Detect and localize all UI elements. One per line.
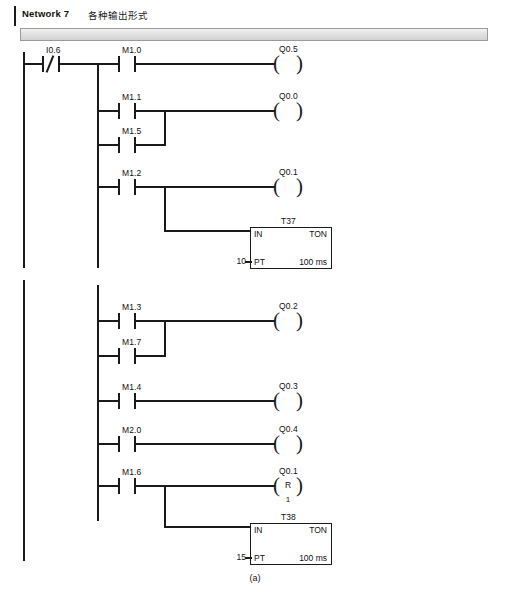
timer-preset-t38: 15	[228, 552, 246, 562]
contact-m1-5[interactable]	[118, 137, 136, 153]
contact-bar-left	[118, 478, 120, 494]
rung-3-wire-left	[97, 186, 118, 188]
timer-name-t37: T37	[281, 216, 296, 226]
contact-bar-left	[118, 103, 120, 119]
coil-label-q0-1-reset: Q0.1	[279, 466, 298, 476]
coil-label-q0-3: Q0.3	[279, 381, 298, 391]
timer-pt-label: PT	[254, 257, 265, 267]
coil-label-q0-1-output: Q0.1	[279, 167, 298, 177]
timer-timebase-label: 100 ms	[299, 257, 327, 267]
coil-paren-left: (	[273, 54, 280, 73]
timer-preset-wire-t37	[245, 261, 252, 263]
network-comment: 各种输出形式	[88, 8, 148, 22]
timer-preset-t37: 10	[228, 256, 246, 266]
contact-m1-3[interactable]	[118, 313, 136, 329]
network-divider-bar	[20, 28, 488, 41]
contact-label-m1-5: M1.5	[122, 126, 141, 136]
rung-3-timer-drop	[164, 186, 166, 232]
coil-q0-2[interactable]: ( )	[273, 311, 303, 331]
coil-paren-left: (	[273, 177, 280, 196]
network-title: Network 7	[22, 8, 69, 19]
coil-paren-right: )	[296, 54, 303, 73]
coil-q0-1-reset[interactable]: ( R )	[273, 476, 303, 496]
coil-label-q0-0: Q0.0	[279, 91, 298, 101]
contact-bar-left	[118, 56, 120, 72]
coil-paren-right: )	[296, 177, 303, 196]
timer-type-label: TON	[309, 229, 327, 239]
contact-label-m1-0: M1.0	[122, 45, 141, 55]
reset-count-value: 1	[273, 495, 303, 504]
coil-paren-left: (	[273, 311, 280, 330]
rung-4-wire-left	[97, 320, 118, 322]
rung-4-parallel-riser	[164, 320, 166, 357]
timer-timebase-label: 100 ms	[299, 553, 327, 563]
contact-m1-1[interactable]	[118, 103, 136, 119]
contact-m1-4[interactable]	[118, 393, 136, 409]
branch-rail-upper	[97, 63, 99, 268]
contact-bar-left	[118, 179, 120, 195]
rung-6-wire-right	[136, 443, 275, 445]
contact-m2-0[interactable]	[118, 436, 136, 452]
figure-caption: (a)	[0, 573, 510, 583]
contact-nc-slash	[46, 55, 54, 72]
rung-2-parallel-wire-left	[97, 144, 118, 146]
contact-bar-left	[118, 137, 120, 153]
rung-2-wire-right	[136, 110, 275, 112]
rung-4-parallel-wire-right	[136, 355, 166, 357]
rung-5-wire-left	[97, 400, 118, 402]
rung-4-wire-right	[136, 320, 275, 322]
rung-1-wire-mid	[60, 63, 118, 65]
contact-bar-left	[118, 313, 120, 329]
timer-in-label: IN	[254, 525, 263, 535]
coil-q0-1-output[interactable]: ( )	[273, 177, 303, 197]
contact-label-m1-2: M1.2	[122, 168, 141, 178]
timer-block-t38[interactable]: IN TON PT 100 ms	[250, 523, 332, 565]
rung-1-wire-right	[136, 63, 275, 65]
timer-name-t38: T38	[281, 512, 296, 522]
coil-q0-3[interactable]: ( )	[273, 391, 303, 411]
contact-i0-6[interactable]	[42, 56, 60, 72]
rung-7-timer-wire	[164, 526, 251, 528]
timer-block-t37[interactable]: IN TON PT 100 ms	[250, 227, 332, 269]
rung-1-wire-left	[23, 63, 42, 65]
network-marker-bar	[14, 6, 16, 26]
coil-paren-right: )	[296, 434, 303, 453]
rung-7-wire-right	[136, 485, 275, 487]
coil-paren-right: )	[296, 101, 303, 120]
rung-3-wire-right	[136, 186, 275, 188]
contact-m1-6[interactable]	[118, 478, 136, 494]
timer-preset-wire-t38	[245, 557, 252, 559]
coil-paren-left: (	[273, 434, 280, 453]
ladder-diagram-page: Network 7 各种输出形式 I0.6 M1.0 ( ) Q0.5 M1.1…	[0, 0, 510, 595]
contact-label-m1-6: M1.6	[122, 467, 141, 477]
coil-label-q0-5: Q0.5	[279, 44, 298, 54]
coil-paren-right: )	[296, 391, 303, 410]
contact-m1-2[interactable]	[118, 179, 136, 195]
rung-2-parallel-riser	[164, 110, 166, 146]
coil-q0-0[interactable]: ( )	[273, 101, 303, 121]
coil-paren-right: )	[296, 476, 303, 495]
left-power-rail-upper	[23, 52, 25, 268]
contact-label-i0-6: I0.6	[46, 45, 61, 55]
contact-m1-0[interactable]	[118, 56, 136, 72]
timer-pt-label: PT	[254, 553, 265, 563]
rung-2-wire-left	[97, 110, 118, 112]
contact-bar-left	[42, 56, 44, 72]
rung-2-parallel-wire-right	[136, 144, 166, 146]
rung-6-wire-left	[97, 443, 118, 445]
contact-label-m1-3: M1.3	[122, 302, 141, 312]
coil-q0-5[interactable]: ( )	[273, 54, 303, 74]
rung-7-timer-drop	[164, 485, 166, 528]
rung-4-parallel-wire-left	[97, 355, 118, 357]
coil-paren-right: )	[296, 311, 303, 330]
coil-q0-4[interactable]: ( )	[273, 434, 303, 454]
contact-m1-7[interactable]	[118, 348, 136, 364]
contact-label-m1-1: M1.1	[122, 92, 141, 102]
coil-paren-left: (	[273, 391, 280, 410]
left-power-rail-lower	[23, 280, 25, 561]
rung-5-wire-right	[136, 400, 275, 402]
contact-bar-left	[118, 436, 120, 452]
rung-7-wire-left	[97, 485, 118, 487]
contact-label-m1-4: M1.4	[122, 382, 141, 392]
rung-3-timer-wire	[164, 230, 251, 232]
